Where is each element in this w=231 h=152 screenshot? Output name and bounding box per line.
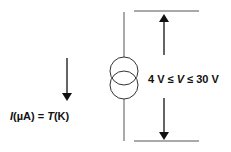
current-source-diagram: 4 V ≤ V ≤ 30 V I(µA) = T(K) <box>0 0 231 152</box>
current-equation-label: I(µA) = T(K) <box>10 110 69 122</box>
temperature-unit: (K) <box>54 110 69 122</box>
voltage-var: V <box>177 73 184 85</box>
temperature-var: T <box>47 110 54 122</box>
voltage-min: 4 V ≤ <box>148 73 177 85</box>
voltage-range-label: 4 V ≤ V ≤ 30 V <box>148 73 219 85</box>
voltage-max: ≤ 30 V <box>184 73 219 85</box>
current-unit: (µA) = <box>13 110 47 122</box>
